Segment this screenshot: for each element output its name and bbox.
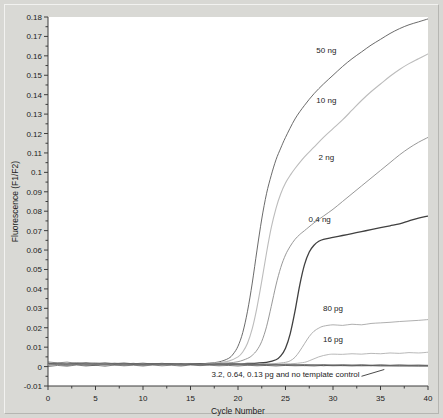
x-tick-label-3: 15 (186, 394, 195, 403)
y-tick-label-1: 0 (38, 363, 43, 372)
y-tick-label-11: 0.1 (31, 168, 43, 177)
y-tick-label-7: 0.06 (26, 246, 42, 255)
y-tick-label-15: 0.14 (26, 91, 42, 100)
annotation-label-0: 3.2, 0.64, 0.13 pg and no template contr… (211, 370, 359, 379)
series-label-16-pg: 16 pg (323, 335, 343, 344)
series-label-50-ng: 50 ng (316, 46, 336, 55)
plot-background (48, 17, 428, 386)
y-tick-label-14: 0.13 (26, 110, 42, 119)
y-tick-label-3: 0.02 (26, 324, 42, 333)
y-tick-label-2: 0.01 (26, 343, 42, 352)
series-label-10-ng: 10 ng (316, 96, 336, 105)
chart-screenshot: -0.0100.010.020.030.040.050.060.070.080.… (0, 0, 443, 418)
x-tick-label-1: 5 (93, 394, 98, 403)
amplification-plot: -0.0100.010.020.030.040.050.060.070.080.… (0, 0, 443, 418)
y-tick-label-6: 0.05 (26, 265, 42, 274)
y-axis-title: Fluorescence (F1/F2) (10, 161, 20, 242)
x-tick-label-2: 10 (139, 394, 148, 403)
y-tick-label-10: 0.09 (26, 188, 42, 197)
series-label-2-ng: 2 ng (319, 153, 335, 162)
x-tick-label-6: 30 (329, 394, 338, 403)
x-tick-label-5: 25 (281, 394, 290, 403)
x-tick-label-7: 35 (376, 394, 385, 403)
y-tick-label-0: -0.01 (24, 382, 43, 391)
x-tick-label-8: 40 (424, 394, 433, 403)
x-tick-label-4: 20 (234, 394, 243, 403)
y-tick-label-5: 0.04 (26, 285, 42, 294)
y-tick-label-19: 0.18 (26, 13, 42, 22)
x-tick-label-0: 0 (46, 394, 51, 403)
series-label-80-pg: 80 pg (323, 304, 343, 313)
series-label-0-4-ng: 0.4 ng (309, 215, 331, 224)
y-tick-label-9: 0.08 (26, 207, 42, 216)
y-tick-label-16: 0.15 (26, 71, 42, 80)
y-tick-label-12: 0.11 (27, 149, 43, 158)
y-tick-label-13: 0.12 (26, 130, 42, 139)
y-tick-label-17: 0.16 (26, 52, 42, 61)
y-tick-label-8: 0.07 (26, 227, 42, 236)
x-axis-title: Cycle Number (211, 406, 265, 416)
y-tick-label-18: 0.17 (26, 32, 42, 41)
y-tick-label-4: 0.03 (26, 304, 42, 313)
